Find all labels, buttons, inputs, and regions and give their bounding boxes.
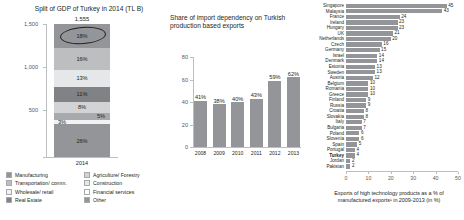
import-bar-2010[interactable]: 40% xyxy=(231,102,244,147)
bar-rect xyxy=(346,164,350,168)
country-bar-value: 6 xyxy=(361,136,364,142)
gdp-total-label: 1,555 xyxy=(54,16,110,22)
tech-tick-label-10: 10 xyxy=(366,175,372,181)
import-y-label-60: 60 xyxy=(174,77,188,83)
gdp-segment-agriculture[interactable]: 8% xyxy=(54,102,110,113)
gdp-stacked-bar[interactable]: 18% 16% 13% 11% 8% 5% 3% 26% xyxy=(54,24,110,157)
legend-label: Wholesale/ retail xyxy=(15,189,53,195)
legend-item-real-estate[interactable]: Real Estate xyxy=(6,197,84,203)
import-dependency-chart-panel: Share of import dependency on Turkish pr… xyxy=(166,0,312,220)
x-label-2013: 2013 xyxy=(287,150,300,156)
bar-rect xyxy=(250,99,263,147)
x-label-2010: 2010 xyxy=(231,150,244,156)
gdp-y-label-1500: 1,500 xyxy=(14,21,38,27)
gdp-segment-label: 5% xyxy=(97,113,105,119)
tech-tick-20 xyxy=(391,172,392,174)
gdp-segment-manufacturing[interactable]: 18% xyxy=(54,24,110,48)
import-bar-value: 59% xyxy=(266,74,283,80)
gdp-y-tick-1000 xyxy=(43,67,47,68)
country-bar-value: 9 xyxy=(368,102,371,108)
import-bar-value: 62% xyxy=(285,71,302,77)
legend-swatch-icon xyxy=(84,180,90,186)
tech-tick-label-40: 40 xyxy=(433,175,439,181)
legend-item-financial-services[interactable]: Financial services xyxy=(84,189,164,195)
country-bar-value: 12 xyxy=(374,75,379,81)
bar-rect xyxy=(346,15,400,19)
legend-swatch-icon xyxy=(6,172,12,178)
tech-tick-label-30: 30 xyxy=(410,175,416,181)
x-label-2009: 2009 xyxy=(213,150,226,156)
x-label-2011: 2011 xyxy=(250,150,263,156)
gdp-chart-title: Split of GDP of Turkey in 2014 (TL B) xyxy=(14,5,164,13)
country-bar-value: 10 xyxy=(370,91,375,97)
bar-rect xyxy=(346,98,366,102)
legend-label: Agriculture/ Forestry xyxy=(93,172,140,178)
gdp-segment-other[interactable]: 26% xyxy=(54,124,110,157)
import-bar-2008[interactable]: 41% xyxy=(194,101,207,147)
gdp-segment-wholesale-retail[interactable]: 13% xyxy=(54,70,110,88)
gdp-x-axis-label: 2014 xyxy=(54,160,110,166)
country-bar-value: 5 xyxy=(359,141,362,147)
bar-rect xyxy=(346,48,380,52)
legend-item-construction[interactable]: Construction xyxy=(84,180,164,186)
bar-rect xyxy=(346,31,393,35)
gdp-segment-real-estate[interactable]: 11% xyxy=(54,87,110,102)
import-bar-2013[interactable]: 62% xyxy=(287,77,300,147)
bar-rect xyxy=(346,70,375,74)
tech-x-axis-ticks: 0 10 20 30 40 50 xyxy=(346,172,458,180)
gdp-segment-transportation[interactable]: 16% xyxy=(54,48,110,70)
bar-rect xyxy=(213,104,226,147)
bar-rect xyxy=(346,4,447,8)
gdp-y-axis-line xyxy=(46,24,47,157)
import-chart-title: Share of import dependency on Turkish pr… xyxy=(170,14,290,30)
bar-rect xyxy=(194,101,207,147)
tech-tick-40 xyxy=(436,172,437,174)
import-y-label-0: 0 xyxy=(174,144,188,150)
legend-label: Construction xyxy=(93,180,122,186)
legend-item-other[interactable]: Other xyxy=(84,197,164,203)
country-row[interactable]: Pakistan2 xyxy=(312,164,464,170)
country-bar-value: 20 xyxy=(392,36,397,42)
gdp-segment-label: 11% xyxy=(77,91,88,97)
import-bar-2011[interactable]: 43% xyxy=(250,99,263,147)
legend-item-manufacturing[interactable]: Manufacturing xyxy=(6,172,84,178)
import-bar-2009[interactable]: 38% xyxy=(213,104,226,147)
import-bar-value: 38% xyxy=(211,98,228,104)
legend-swatch-icon xyxy=(6,197,12,203)
legend-item-wholesale-retail[interactable]: Wholesale/ retail xyxy=(6,189,84,195)
import-y-label-20: 20 xyxy=(174,122,188,128)
bar-rect xyxy=(346,26,398,30)
gdp-y-tick-500 xyxy=(43,110,47,111)
tech-chart-caption: Exports of high technology products as a… xyxy=(320,190,458,204)
import-bars-group: 41% 38% 40% 43% 59% 62% xyxy=(194,57,300,147)
tech-tick-label-20: 20 xyxy=(388,175,394,181)
gdp-segment-label: 16% xyxy=(76,56,87,62)
tech-tick-10 xyxy=(368,172,369,174)
legend-swatch-icon xyxy=(84,172,90,178)
bar-rect xyxy=(346,137,359,141)
bar-rect xyxy=(346,54,377,58)
legend-swatch-icon xyxy=(6,189,12,195)
bar-rect xyxy=(231,102,244,147)
gdp-legend: Manufacturing Agriculture/ Forestry Tran… xyxy=(6,172,164,203)
gdp-y-tick-1500 xyxy=(43,24,47,25)
country-bar-value: 4 xyxy=(356,152,359,158)
legend-label: Manufacturing xyxy=(15,172,48,178)
country-label: Pakistan xyxy=(312,164,346,170)
x-label-2008: 2008 xyxy=(194,150,207,156)
bar-rect xyxy=(346,126,362,130)
import-bar-2012[interactable]: 59% xyxy=(268,81,281,147)
bar-rect xyxy=(346,131,359,135)
bar-rect xyxy=(346,42,382,46)
legend-label: Transportation/ comm. xyxy=(15,180,67,186)
legend-item-transportation-comm[interactable]: Transportation/ comm. xyxy=(6,180,84,186)
tech-tick-0 xyxy=(346,172,347,174)
bar-rect xyxy=(346,109,364,113)
gdp-split-chart-panel: Split of GDP of Turkey in 2014 (TL B) 1,… xyxy=(0,0,166,220)
country-bar-track: 2 xyxy=(346,164,464,170)
bar-rect xyxy=(346,87,368,91)
gdp-segment-label: 13% xyxy=(76,75,87,81)
bar-rect xyxy=(346,92,368,96)
import-x-axis-labels: 2008 2009 2010 2011 2012 2013 xyxy=(194,150,300,156)
legend-item-agriculture-forestry[interactable]: Agriculture/ Forestry xyxy=(84,172,164,178)
